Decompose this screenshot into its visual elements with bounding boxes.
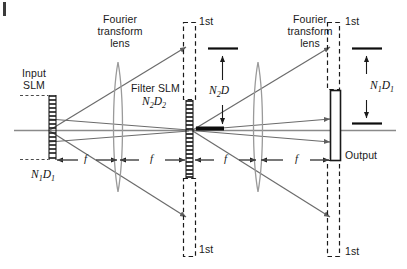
input-slm-element <box>49 95 56 160</box>
fourier-lens-2-label-line3: lens <box>272 38 348 50</box>
focal-length-label-2: f <box>150 152 153 164</box>
fourier-lens-1-label-line3: lens <box>82 38 158 50</box>
ray-down-to-filter-first-order <box>49 131 186 218</box>
input-slm-size-label: N1D1 <box>31 168 55 183</box>
fourier-lens-1-label-line1: Fourier <box>82 14 158 26</box>
output-span-label: N1D1 <box>370 79 394 94</box>
filter-zero-order-stop-bar <box>196 127 224 131</box>
filter-slm-label: Filter SLM <box>131 83 180 95</box>
filter-slm-element <box>186 100 193 178</box>
output-first-order-top-label: 1st <box>345 16 359 28</box>
output-first-order-bottom-label: 1st <box>345 246 359 258</box>
ray-upper-zero-order-in <box>49 119 189 130</box>
filter-slm-size-label: N2D2 <box>142 95 166 110</box>
fourier-lens-2-label-line2: transform <box>272 26 348 38</box>
optical-diagram-figure: Input SLM N1D1 Fourier transform lens Fi… <box>0 0 407 269</box>
filter-first-order-top-label: 1st <box>199 16 213 28</box>
fourier-lens-1-label-line2: transform <box>82 26 158 38</box>
filter-first-order-bottom-label: 1st <box>199 244 213 256</box>
fourier-lens-2-label-line1: Fourier <box>272 14 348 26</box>
filter-first-order-top-region <box>184 23 196 100</box>
filter-first-order-bottom-region <box>184 179 196 257</box>
output-label: Output <box>345 150 377 162</box>
output-plane-element <box>331 91 341 161</box>
input-slm-label-line1: Input <box>12 68 56 80</box>
ray-lower-zero-order-in <box>49 131 189 142</box>
focal-length-label-3: f <box>224 152 227 164</box>
focal-length-label-4: f <box>295 152 298 164</box>
output-first-order-bottom-region <box>328 161 340 257</box>
ray-bundle-second-stage <box>192 47 330 217</box>
fourier-transform-lens-1-element <box>114 62 123 192</box>
page-corner-mark <box>3 2 6 16</box>
ray-lower-zero-order-out <box>192 131 330 143</box>
focal-length-label-1: f <box>84 152 87 164</box>
input-slm-label-line2: SLM <box>12 80 56 92</box>
filter-span-label: N2D <box>209 84 229 99</box>
